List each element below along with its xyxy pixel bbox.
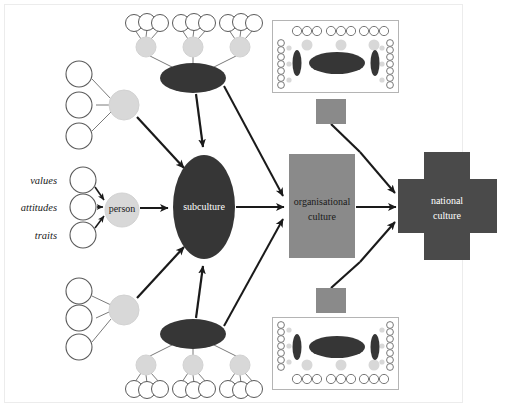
- arrow-bottom-cluster-to-subculture: [196, 266, 203, 318]
- lower-left-person-cluster: [66, 278, 139, 360]
- leaf-circles: [126, 381, 263, 399]
- bottom-subculture-cluster: [126, 319, 263, 399]
- leaf-circle[interactable]: [199, 381, 216, 398]
- diagram-canvas: values attitudes traits: [0, 0, 510, 410]
- bottom-mini-organisation[interactable]: [273, 318, 399, 390]
- traits-label: traits: [35, 230, 57, 241]
- leaf-circles: [126, 14, 263, 32]
- bottom-connector-square[interactable]: [316, 288, 346, 313]
- organisational-culture-label-line2: culture: [308, 211, 336, 222]
- subculture-node[interactable]: [160, 63, 226, 93]
- person-node[interactable]: [109, 90, 139, 120]
- person-node[interactable]: [136, 355, 156, 375]
- leaf-circle[interactable]: [246, 15, 263, 32]
- mini-leaf-circles: [292, 374, 388, 383]
- subculture-node-main[interactable]: subculture: [173, 155, 235, 259]
- values-label: values: [30, 175, 57, 186]
- mini-subculture-right: [371, 50, 380, 76]
- top-mini-organisation[interactable]: [273, 21, 399, 93]
- arrow-upper-left-cluster-to-subculture: [137, 117, 184, 168]
- culture-levels-diagram: values attitudes traits: [0, 0, 510, 410]
- leaf-circle[interactable]: [152, 381, 169, 398]
- bottom-connector-stem: [331, 262, 360, 288]
- arrow-lower-left-cluster-to-subculture: [137, 247, 184, 298]
- mini-subculture-left: [293, 334, 302, 360]
- mini-subculture-center: [309, 336, 365, 358]
- leaf-circle[interactable]: [66, 305, 92, 331]
- organisational-culture-node[interactable]: organisational culture: [289, 154, 355, 258]
- attitudes-label: attitudes: [21, 202, 57, 213]
- person-node-main[interactable]: person: [105, 193, 139, 227]
- top-connector-square[interactable]: [316, 99, 346, 124]
- national-culture-node[interactable]: national culture: [398, 152, 497, 260]
- leaf-circle[interactable]: [66, 92, 92, 118]
- leaf-circle[interactable]: [66, 278, 92, 304]
- traits-circle[interactable]: [70, 222, 96, 248]
- leaf-circle[interactable]: [66, 334, 92, 360]
- arrow-top-cluster-to-subculture: [196, 94, 203, 147]
- subculture-node[interactable]: [160, 319, 226, 349]
- input-traits-group: values attitudes traits: [21, 167, 96, 248]
- national-culture-label-line1: national: [431, 195, 463, 206]
- person-node[interactable]: [230, 37, 250, 57]
- leaf-circle[interactable]: [199, 15, 216, 32]
- attitudes-circle[interactable]: [70, 194, 96, 220]
- mini-subculture-left: [293, 50, 302, 76]
- person-node[interactable]: [183, 355, 203, 375]
- person-node[interactable]: [183, 37, 203, 57]
- values-circle[interactable]: [70, 167, 96, 193]
- leaf-circle[interactable]: [152, 15, 169, 32]
- leaf-circle[interactable]: [66, 61, 92, 87]
- subculture-label: subculture: [183, 201, 225, 212]
- top-subculture-cluster: [126, 14, 263, 94]
- mini-subculture-center: [309, 52, 365, 74]
- person-node[interactable]: [109, 295, 139, 325]
- person-node[interactable]: [230, 355, 250, 375]
- organisational-culture-label-line1: organisational: [294, 196, 351, 207]
- leaf-circle[interactable]: [66, 123, 92, 149]
- national-culture-label-line2: culture: [433, 210, 461, 221]
- mini-subculture-right: [371, 334, 380, 360]
- person-node[interactable]: [136, 37, 156, 57]
- person-label: person: [109, 203, 136, 214]
- top-connector-stem: [331, 124, 360, 152]
- leaf-circle[interactable]: [246, 381, 263, 398]
- mini-leaf-circles: [292, 26, 388, 35]
